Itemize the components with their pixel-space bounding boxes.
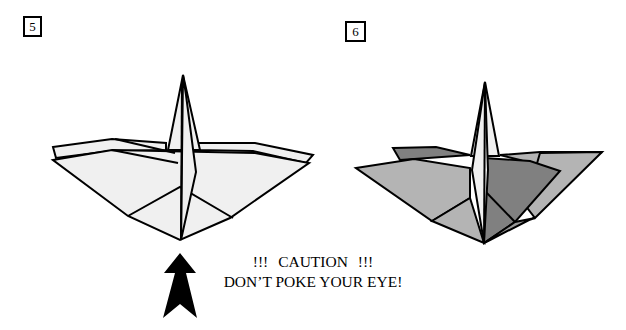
- caution-warning: DON’T POKE YOUR EYE!: [218, 272, 408, 292]
- figure-6-crane-base-shaded: [356, 82, 602, 243]
- caution-text: !!! CAUTION !!! DON’T POKE YOUR EYE!: [218, 252, 408, 292]
- figure-5-crane-base: [53, 75, 313, 240]
- up-arrow-icon: [163, 253, 197, 318]
- caution-title: !!! CAUTION !!!: [218, 252, 408, 272]
